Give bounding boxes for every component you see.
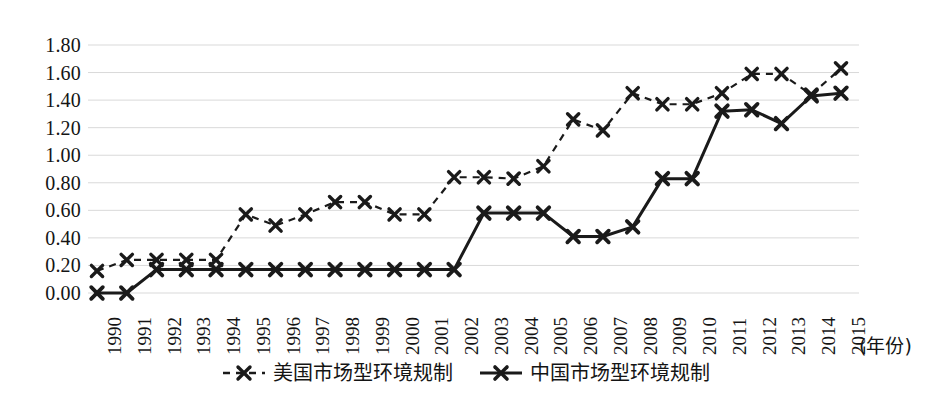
- x-axis-tick-label: 2007: [611, 317, 630, 355]
- x-axis-tick-label: 1995: [254, 317, 273, 355]
- y-axis-tick-label: 1.80: [0, 35, 81, 55]
- x-axis-tick-label: 1999: [373, 317, 392, 355]
- x-axis-tick-label: 2008: [641, 317, 660, 355]
- x-axis-unit-label: (年份): [859, 337, 912, 356]
- data-point-marker: [91, 265, 102, 276]
- x-axis-tick-label: 2004: [522, 317, 541, 355]
- data-point-marker: [449, 172, 460, 183]
- y-axis-tick-label: 0.60: [0, 200, 81, 220]
- legend-label-us: 美国市场型环境规制: [273, 362, 453, 384]
- y-axis-tick-label: 0.80: [0, 173, 81, 193]
- legend-swatch-dashed-x-icon: [222, 363, 266, 383]
- x-axis-tick-label: 2014: [819, 317, 838, 355]
- x-axis-tick-label: 2000: [403, 317, 422, 355]
- x-axis-tick-label: 1998: [343, 317, 362, 355]
- x-axis-tick-label: 1990: [105, 317, 124, 355]
- chart-figure: 0.000.200.400.600.801.001.201.401.601.80…: [0, 0, 932, 414]
- legend-item-us[interactable]: 美国市场型环境规制: [222, 362, 453, 384]
- y-axis-tick-label: 0.00: [0, 283, 81, 303]
- x-axis-tick-label: 2010: [700, 317, 719, 355]
- x-axis-tick-label: 1992: [165, 317, 184, 355]
- legend-item-china[interactable]: 中国市场型环境规制: [479, 362, 710, 384]
- y-axis-tick-label: 1.40: [0, 90, 81, 110]
- series-china: [91, 87, 847, 298]
- x-axis-tick-label: 2001: [432, 317, 451, 355]
- x-axis-tick-label: 2013: [789, 317, 808, 355]
- x-axis-tick-label: 2011: [730, 318, 749, 355]
- x-axis-tick-label: 1994: [224, 317, 243, 355]
- x-axis-tick-label: 1996: [284, 317, 303, 355]
- data-point-marker: [627, 88, 638, 99]
- data-series-group: [91, 63, 847, 299]
- x-axis-tick-label: 2005: [551, 317, 570, 355]
- data-point-marker: [568, 114, 579, 125]
- data-point-marker: [716, 88, 727, 99]
- data-point-marker: [359, 196, 370, 207]
- x-axis-tick-label: 2012: [760, 317, 779, 355]
- y-axis-tick-label: 0.20: [0, 255, 81, 275]
- legend-swatch-solid-x-icon: [479, 363, 523, 383]
- y-axis-tick-label: 0.40: [0, 228, 81, 248]
- data-point-marker: [538, 161, 549, 172]
- data-point-marker: [597, 125, 608, 136]
- x-axis-tick-label: 2006: [581, 317, 600, 355]
- gridlines: [88, 45, 859, 293]
- x-axis-tick-label: 2009: [670, 317, 689, 355]
- x-axis-tick-label: 1997: [313, 317, 332, 355]
- x-axis-tick-label: 2003: [492, 317, 511, 355]
- data-point-marker: [776, 68, 787, 79]
- y-axis-tick-label: 1.20: [0, 118, 81, 138]
- y-axis-tick-label: 1.60: [0, 63, 81, 83]
- x-axis-tick-label: 1993: [194, 317, 213, 355]
- chart-legend: 美国市场型环境规制 中国市场型环境规制: [0, 362, 932, 384]
- data-point-marker: [270, 220, 281, 231]
- y-axis-tick-label: 1.00: [0, 145, 81, 165]
- x-axis-tick-label: 1991: [135, 317, 154, 355]
- legend-label-china: 中国市场型环境规制: [530, 362, 710, 384]
- data-point-marker: [121, 254, 132, 265]
- x-axis-tick-label: 2002: [462, 317, 481, 355]
